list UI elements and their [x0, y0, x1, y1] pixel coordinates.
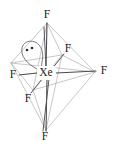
- bond-xe-f-right: [56, 71, 96, 73]
- cage-edge-ring-back-right: [62, 55, 95, 72]
- molecular-geometry-diagram: F F F F F F Xe: [0, 0, 114, 148]
- lone-pair-dot-2: [31, 47, 34, 50]
- cage-edge-bottom-right: [46, 72, 95, 130]
- molecule-svg: F F F F F F Xe: [0, 0, 114, 148]
- cage-edge-top-left: [11, 23, 47, 63]
- atom-label-f-right: F: [101, 64, 107, 76]
- cage-edge-top-back: [47, 23, 62, 55]
- cage-edge-ring-left-back: [11, 55, 62, 63]
- atom-label-f-lower: F: [25, 92, 31, 104]
- bond-xe-f-lower: [31, 78, 43, 93]
- atom-label-f-left: F: [10, 68, 16, 80]
- atom-label-f-inner: F: [65, 42, 71, 54]
- atom-label-f-bottom: F: [42, 130, 48, 142]
- lone-pair-dot-1: [26, 49, 29, 52]
- bond-xe-f-left: [19, 73, 37, 75]
- atom-label-xe-center: Xe: [39, 66, 52, 78]
- atom-label-f-top: F: [44, 8, 50, 20]
